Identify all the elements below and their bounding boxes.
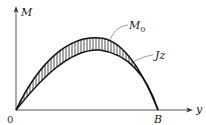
jz-curve [16,50,158,110]
jz-label: Jz [153,49,165,62]
jz-leader-line [133,55,153,62]
horizontal-axis-label: y [195,103,203,116]
m0-label: M0 [128,19,145,34]
m0-leader-line [110,25,128,40]
end-point-label: B [153,113,162,125]
diagram-canvas: M y 0 B M0 Jz [0,0,206,125]
origin-label: 0 [7,114,13,125]
vertical-axis-label: M [20,6,33,19]
